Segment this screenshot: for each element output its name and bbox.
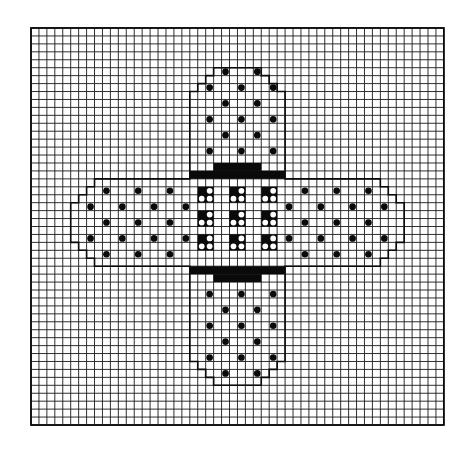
open-circle-icon bbox=[270, 196, 276, 202]
filled-dot-icon bbox=[222, 370, 229, 377]
filled-dot-icon bbox=[270, 354, 277, 361]
filled-dot-icon bbox=[238, 354, 245, 361]
open-circle-icon bbox=[239, 220, 245, 226]
filled-dot-icon bbox=[151, 203, 158, 210]
open-circle-icon bbox=[270, 212, 276, 218]
pad-motif bbox=[230, 234, 246, 250]
filled-dot-icon bbox=[254, 132, 261, 139]
open-circle-icon bbox=[207, 243, 213, 249]
filled-dot-icon bbox=[381, 235, 388, 242]
filled-dot-icon bbox=[87, 203, 94, 210]
filled-dot-icon bbox=[270, 322, 277, 329]
pad-motif bbox=[198, 211, 214, 227]
filled-dot-icon bbox=[270, 116, 277, 123]
dark-band-row bbox=[214, 163, 262, 171]
open-circle-icon bbox=[239, 243, 245, 249]
filled-dot-icon bbox=[286, 235, 293, 242]
open-circle-icon bbox=[239, 196, 245, 202]
filled-dot-icon bbox=[238, 84, 245, 91]
filled-dot-icon bbox=[317, 203, 324, 210]
cross-stitch-chart bbox=[0, 0, 468, 450]
filled-dot-icon bbox=[238, 291, 245, 298]
filled-dot-icon bbox=[302, 219, 309, 226]
open-circle-icon bbox=[199, 220, 205, 226]
open-circle-icon bbox=[199, 243, 205, 249]
open-circle-icon bbox=[270, 243, 276, 249]
filled-dot-icon bbox=[349, 235, 356, 242]
filled-dot-icon bbox=[182, 235, 189, 242]
filled-dot-icon bbox=[365, 251, 372, 258]
filled-dot-icon bbox=[206, 148, 213, 155]
open-circle-icon bbox=[207, 220, 213, 226]
open-circle-icon bbox=[207, 212, 213, 218]
filled-dot-icon bbox=[222, 100, 229, 107]
filled-dot-icon bbox=[103, 251, 110, 258]
filled-dot-icon bbox=[206, 84, 213, 91]
pad-motif bbox=[230, 211, 246, 227]
open-circle-icon bbox=[270, 236, 276, 242]
open-circle-icon bbox=[239, 188, 245, 194]
filled-dot-icon bbox=[182, 203, 189, 210]
filled-dot-icon bbox=[135, 251, 142, 258]
filled-dot-icon bbox=[270, 291, 277, 298]
open-circle-icon bbox=[262, 220, 268, 226]
filled-dot-icon bbox=[222, 338, 229, 345]
filled-dot-icon bbox=[270, 148, 277, 155]
filled-dot-icon bbox=[87, 235, 94, 242]
filled-dot-icon bbox=[302, 251, 309, 258]
dark-band-row bbox=[214, 274, 262, 282]
filled-dot-icon bbox=[381, 203, 388, 210]
filled-dot-icon bbox=[238, 148, 245, 155]
open-circle-icon bbox=[207, 196, 213, 202]
filled-dot-icon bbox=[302, 187, 309, 194]
open-circle-icon bbox=[207, 188, 213, 194]
open-circle-icon bbox=[262, 196, 268, 202]
filled-dot-icon bbox=[206, 322, 213, 329]
filled-dot-icon bbox=[333, 251, 340, 258]
open-circle-icon bbox=[231, 220, 237, 226]
filled-dot-icon bbox=[222, 132, 229, 139]
open-circle-icon bbox=[199, 196, 205, 202]
filled-dot-icon bbox=[222, 307, 229, 314]
open-circle-icon bbox=[262, 243, 268, 249]
filled-dot-icon bbox=[222, 68, 229, 75]
pad-motif bbox=[261, 234, 277, 250]
dark-band-row bbox=[190, 171, 285, 179]
filled-dot-icon bbox=[206, 291, 213, 298]
filled-dot-icon bbox=[119, 235, 126, 242]
pad-motif bbox=[261, 187, 277, 203]
filled-dot-icon bbox=[254, 338, 261, 345]
filled-dot-icon bbox=[103, 187, 110, 194]
filled-dot-icon bbox=[365, 219, 372, 226]
filled-dot-icon bbox=[270, 84, 277, 91]
filled-dot-icon bbox=[238, 322, 245, 329]
pad-motif bbox=[261, 211, 277, 227]
open-circle-icon bbox=[270, 188, 276, 194]
filled-dot-icon bbox=[254, 370, 261, 377]
filled-dot-icon bbox=[167, 187, 174, 194]
filled-dot-icon bbox=[238, 116, 245, 123]
filled-dot-icon bbox=[254, 100, 261, 107]
center-pad-motifs bbox=[198, 187, 277, 251]
open-circle-icon bbox=[270, 220, 276, 226]
filled-dot-icon bbox=[254, 307, 261, 314]
pad-motif bbox=[198, 234, 214, 250]
pad-motif bbox=[198, 187, 214, 203]
filled-dot-icon bbox=[135, 187, 142, 194]
filled-dot-icon bbox=[206, 354, 213, 361]
filled-dot-icon bbox=[167, 251, 174, 258]
filled-dot-icon bbox=[349, 203, 356, 210]
filled-dot-icon bbox=[286, 203, 293, 210]
open-circle-icon bbox=[207, 236, 213, 242]
pad-motif bbox=[230, 187, 246, 203]
open-circle-icon bbox=[239, 212, 245, 218]
filled-dot-icon bbox=[365, 187, 372, 194]
open-circle-icon bbox=[231, 196, 237, 202]
filled-dot-icon bbox=[119, 203, 126, 210]
filled-dot-icon bbox=[206, 116, 213, 123]
filled-dot-icon bbox=[167, 219, 174, 226]
dark-band-row bbox=[190, 266, 285, 274]
open-circle-icon bbox=[239, 236, 245, 242]
filled-dot-icon bbox=[135, 219, 142, 226]
filled-dot-icon bbox=[151, 235, 158, 242]
